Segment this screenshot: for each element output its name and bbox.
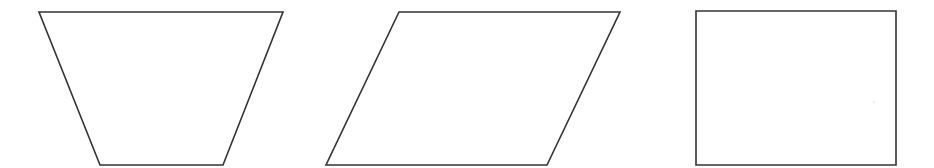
diagram-canvas bbox=[0, 0, 934, 168]
shapes-layer bbox=[0, 0, 934, 168]
trapezoid-shape bbox=[39, 12, 283, 165]
rectangle-shape bbox=[696, 11, 896, 165]
scan-speck bbox=[873, 101, 875, 103]
parallelogram-shape bbox=[326, 12, 620, 165]
